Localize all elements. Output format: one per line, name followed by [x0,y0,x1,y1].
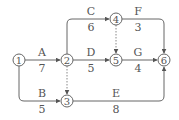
node-4: 4 [110,13,122,25]
node-1: 1 [13,54,25,66]
activity-d-duration: 5 [88,62,95,75]
svg-text:4: 4 [113,14,119,25]
svg-text:6: 6 [161,55,167,66]
svg-text:5: 5 [113,55,119,66]
activity-f-arrow [122,19,164,53]
activity-c-duration: 6 [88,21,95,34]
svg-text:1: 1 [16,55,22,66]
node-5: 5 [110,54,122,66]
network-diagram: 1 2 3 4 5 6 A 7 B 5 C 6 D 5 E 8 F 3 G 4 [0,0,179,120]
node-3: 3 [61,95,73,107]
activity-g-duration: 4 [135,62,142,75]
node-6: 6 [158,54,170,66]
activity-f-duration: 3 [135,21,142,34]
activity-c-name: C [87,5,95,18]
activity-b-name: B [38,87,46,100]
activity-e-duration: 8 [113,103,120,116]
activity-e-name: E [112,87,120,100]
activity-f-name: F [134,5,142,18]
svg-text:3: 3 [64,96,70,107]
activity-g-name: G [134,46,143,59]
svg-text:2: 2 [64,55,70,66]
activity-d-name: D [87,46,96,59]
activity-a-name: A [37,46,47,59]
node-2: 2 [61,54,73,66]
activity-a-duration: 7 [39,62,46,75]
activity-b-duration: 5 [39,103,46,116]
